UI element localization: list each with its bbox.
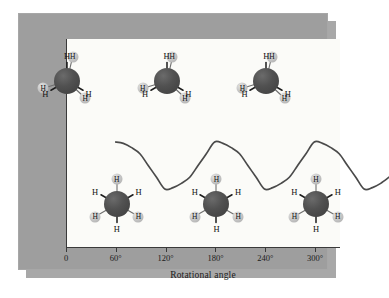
hydrogen-atom-front: H [335,187,341,197]
hydrogen-atom-front: H [291,187,297,197]
hydrogen-atom-front: H [313,224,319,234]
carbon-atom [104,191,130,217]
hydrogen-atom-front: H [263,51,269,61]
x-tick-mark [166,248,167,252]
hydrogen-atom-rear: H [289,211,300,222]
x-axis-ticks: 060°120°180°240°300° [66,248,340,268]
hydrogen-atom-front: H [285,89,291,99]
hydrogen-atom-front: H [114,224,120,234]
hydrogen-label: H [136,212,141,221]
x-tick-label: 0 [64,253,68,263]
x-tick-label: 120° [158,253,174,263]
x-tick-mark [265,248,266,252]
x-tick-mark [66,248,67,252]
hydrogen-atom-front: H [142,89,148,99]
hydrogen-label: H [292,212,297,221]
hydrogen-label: H [214,175,219,184]
hydrogen-atom-front: H [135,187,141,197]
hydrogen-label: H [313,175,318,184]
plot-area: HHHHHHHHHHHHHHHHHHHHHHHHHHHHHHHHHHHH [66,39,340,248]
x-tick-label: 180° [207,253,223,263]
hydrogen-atom-front: H [86,89,92,99]
hydrogen-atom-rear: H [211,174,222,185]
hydrogen-atom-rear: H [111,174,122,185]
hydrogen-atom-rear: H [133,211,144,222]
hydrogen-label: H [114,175,119,184]
hydrogen-label: H [92,212,97,221]
hydrogen-atom-front: H [213,224,219,234]
x-tick-mark [315,248,316,252]
carbon-atom [303,191,329,217]
hydrogen-label: H [335,212,340,221]
hydrogen-atom-rear: H [332,211,343,222]
carbon-atom [154,68,180,94]
hydrogen-atom-rear: H [233,211,244,222]
hydrogen-label: H [269,52,274,61]
figure-panel: Potential energy HHHHHHHHHHHHHHHHHHHHHHH… [18,13,328,270]
hydrogen-atom-front: H [42,89,48,99]
x-tick-mark [116,248,117,252]
x-tick-mark [215,248,216,252]
x-tick-label: 240° [257,253,273,263]
hydrogen-atom-front: H [64,51,70,61]
hydrogen-atom-front: H [235,187,241,197]
x-tick-label: 300° [307,253,323,263]
x-axis-label: Rotational angle [66,270,340,280]
hydrogen-atom-front: H [192,187,198,197]
hydrogen-label: H [70,52,75,61]
hydrogen-atom-rear: H [311,174,322,185]
carbon-atom [54,68,80,94]
hydrogen-atom-front: H [185,89,191,99]
hydrogen-atom-front: H [242,89,248,99]
hydrogen-atom-front: H [164,51,170,61]
hydrogen-label: H [192,212,197,221]
hydrogen-label: H [170,52,175,61]
hydrogen-atom-rear: H [90,211,101,222]
hydrogen-atom-rear: H [189,211,200,222]
hydrogen-atom-front: H [92,187,98,197]
x-tick-label: 60° [110,253,122,263]
hydrogen-label: H [235,212,240,221]
